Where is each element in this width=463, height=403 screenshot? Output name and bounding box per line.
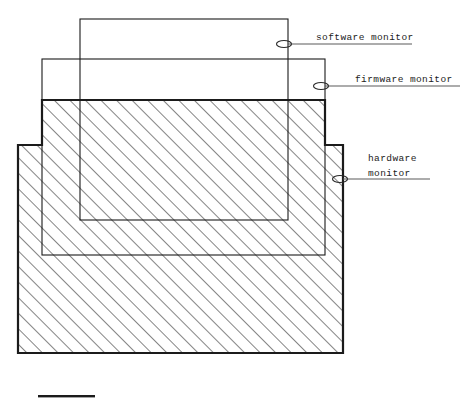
diagram-canvas: software monitor firmware monitor hardwa… <box>0 0 463 403</box>
label-firmware-monitor: firmware monitor <box>355 74 453 85</box>
label-hardware-monitor-line1: hardware <box>368 153 417 164</box>
scale-bar <box>38 395 95 397</box>
label-software-monitor: software monitor <box>316 32 414 43</box>
monitor-scope-diagram: software monitor firmware monitor hardwa… <box>0 0 463 403</box>
label-hardware-monitor-line2: monitor <box>368 168 411 179</box>
hardware-monitor-hatch-fill <box>18 100 343 353</box>
shape-hardware-monitor-block <box>18 100 343 353</box>
